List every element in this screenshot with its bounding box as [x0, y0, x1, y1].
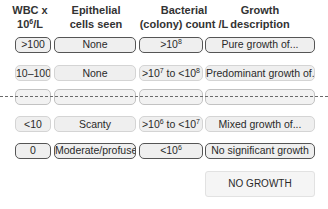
cell-growth-row3-placeholder [205, 89, 315, 105]
cell-epithelial-row3-placeholder [54, 89, 136, 105]
cell-growth-row2: Predominant growth of... [205, 65, 315, 81]
cell-bacterial-row3-placeholder [139, 89, 203, 105]
cell-epithelial-row5: Moderate/profuse [54, 143, 136, 159]
cell-wbc-row5: 0 [15, 143, 51, 159]
header-epithelial-line1: Epithelial [54, 3, 138, 17]
no-growth-box: NO GROWTH [205, 171, 315, 197]
cell-growth-row5: No significant growth [205, 143, 315, 159]
header-growth-line2: description [204, 17, 316, 31]
cell-bacterial-row5: <106 [139, 143, 203, 159]
cell-wbc-row3-placeholder [15, 89, 51, 105]
cell-wbc-row4: <10 [15, 116, 51, 132]
header-wbc: WBC x 106/L [4, 3, 56, 31]
header-wbc-line1: WBC x [4, 3, 56, 17]
header-epithelial-line2: cells seen [54, 17, 138, 31]
cell-wbc-row1: >100 [15, 37, 51, 53]
header-wbc-line2: 106/L [4, 17, 56, 31]
cell-growth-row4: Mixed growth of... [205, 116, 315, 132]
cell-bacterial-row1: >108 [139, 37, 203, 53]
header-growth-line1: Growth [204, 3, 316, 17]
cell-epithelial-row1: None [54, 37, 136, 53]
cell-growth-row1: Pure growth of... [205, 37, 315, 53]
header-epithelial: Epithelial cells seen [54, 3, 138, 31]
cell-epithelial-row2: None [54, 65, 136, 81]
header-growth: Growth description [204, 3, 316, 31]
dashed-separator [0, 96, 328, 97]
cell-bacterial-row4: >106 to <107 [139, 116, 203, 132]
cell-epithelial-row4: Scanty [54, 116, 136, 132]
cell-wbc-row2: 10–100 [15, 65, 51, 81]
cell-bacterial-row2: >107 to <108 [139, 65, 203, 81]
